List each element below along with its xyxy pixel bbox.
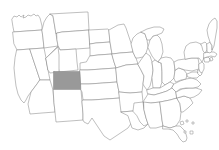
state-indiana[interactable] (152, 60, 162, 88)
us-map-svg (0, 0, 219, 150)
state-florida[interactable] (163, 126, 187, 142)
us-choropleth-map (0, 0, 219, 150)
island-mark-3 (192, 122, 194, 124)
state-rhode-island[interactable] (210, 57, 213, 61)
state-massachusetts[interactable] (204, 52, 217, 58)
state-nebraska[interactable] (80, 54, 116, 70)
state-kansas[interactable] (80, 68, 117, 84)
island-mark-4 (184, 131, 186, 133)
state-oklahoma[interactable] (81, 82, 120, 100)
island-mark-1 (180, 121, 184, 125)
island-mark-5 (190, 131, 193, 134)
state-missouri[interactable] (116, 64, 144, 93)
state-new-jersey[interactable] (199, 62, 204, 73)
state-south-dakota[interactable] (90, 42, 112, 56)
state-north-dakota[interactable] (89, 29, 110, 44)
state-washington[interactable] (12, 14, 42, 32)
state-new-mexico[interactable] (54, 90, 84, 123)
state-wyoming[interactable] (57, 30, 90, 50)
state-north-carolina[interactable] (176, 88, 202, 98)
state-colorado-highlighted[interactable] (54, 72, 81, 90)
island-mark-2 (186, 120, 188, 122)
state-minnesota[interactable] (109, 24, 133, 54)
state-utah-notch[interactable] (46, 47, 59, 73)
state-oregon[interactable] (13, 30, 44, 50)
state-georgia[interactable] (160, 98, 181, 128)
